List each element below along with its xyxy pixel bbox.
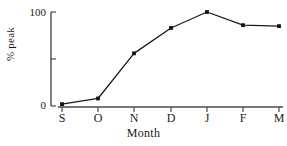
data-point-n: [132, 51, 136, 55]
x-axis-label-j: J: [197, 111, 217, 126]
data-point-m: [277, 24, 281, 28]
data-point-d: [169, 26, 173, 30]
x-axis-label-n: N: [124, 111, 144, 126]
data-series-markers: [60, 10, 281, 106]
chart-container: % peak 100 0 S O N D J F M Month: [0, 0, 287, 146]
data-point-o: [96, 97, 100, 101]
x-axis-title: Month: [0, 126, 287, 141]
data-point-j: [205, 10, 209, 14]
x-axis-label-s: S: [52, 111, 72, 126]
x-axis-label-d: D: [161, 111, 181, 126]
x-axis-label-m: M: [269, 111, 287, 126]
data-point-f: [241, 23, 245, 27]
x-axis-label-o: O: [88, 111, 108, 126]
x-axis-label-f: F: [233, 111, 253, 126]
data-series-line: [62, 12, 279, 104]
data-point-s: [60, 102, 64, 106]
